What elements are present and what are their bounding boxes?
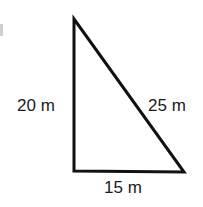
hypotenuse-length-label: 25 m — [148, 96, 186, 116]
left-side-length-label: 20 m — [17, 96, 55, 116]
bottom-side-length-label: 15 m — [104, 178, 142, 198]
